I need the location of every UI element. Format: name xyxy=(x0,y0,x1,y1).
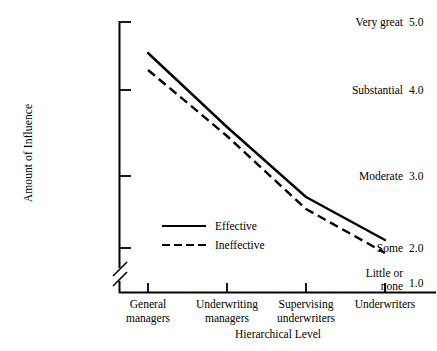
y-tick-label-some: Some2.0 xyxy=(319,242,437,254)
y-tick-value: 5.0 xyxy=(409,16,431,28)
legend-item-effective: Effective xyxy=(162,216,265,235)
y-tick-label-very-great: Very great5.0 xyxy=(319,16,437,28)
x-axis-title: Hierarchical Level xyxy=(119,328,437,340)
y-tick-label-substantial: Substantial4.0 xyxy=(319,84,437,96)
series-line-effective xyxy=(148,53,385,240)
y-tick-value: 2.0 xyxy=(409,242,431,254)
chart-container: Amount of Influence Very great5.0 Substa… xyxy=(0,0,437,351)
y-tick-descriptor: Substantial xyxy=(352,84,403,96)
legend-item-label: Ineffective xyxy=(215,239,265,251)
y-tick-value: 4.0 xyxy=(409,84,431,96)
legend-item-label: Effective xyxy=(215,220,257,232)
chart-legend: Effective Ineffective xyxy=(162,216,265,254)
x-tick-label-underwriters: Underwriters xyxy=(330,297,437,311)
y-tick-descriptor-line1: Little or xyxy=(366,267,403,279)
y-tick-value: 3.0 xyxy=(409,170,431,182)
legend-dashed-line-icon xyxy=(162,240,206,250)
y-tick-label-moderate: Moderate3.0 xyxy=(319,170,437,182)
legend-solid-line-icon xyxy=(162,221,206,231)
y-tick-descriptor-line2: none xyxy=(381,280,403,292)
y-axis-title: Amount of Influence xyxy=(22,73,34,233)
y-tick-descriptor: Moderate xyxy=(359,170,403,182)
y-tick-descriptor: Little or none xyxy=(366,267,403,292)
y-tick-descriptor: Some xyxy=(377,242,403,254)
x-tick-label-line1: Underwriters xyxy=(330,297,437,311)
legend-item-ineffective: Ineffective xyxy=(162,235,265,254)
x-tick-label-line2: underwriters xyxy=(251,311,361,325)
y-tick-label-little-or-none: Little or none 1.0 xyxy=(319,267,437,292)
y-tick-value: 1.0 xyxy=(409,277,431,290)
y-tick-descriptor: Very great xyxy=(355,16,403,28)
